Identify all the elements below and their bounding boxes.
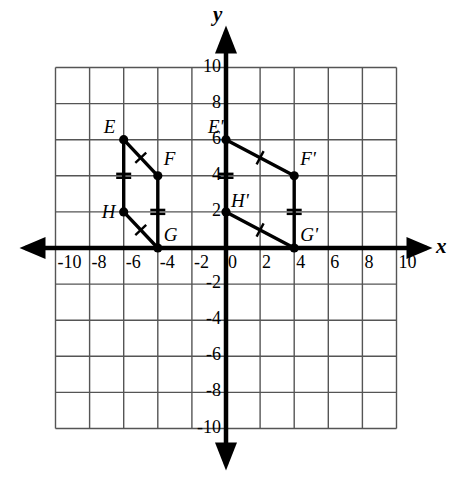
- x-tick-label: -2: [194, 252, 209, 273]
- y-axis-label: y: [213, 2, 222, 27]
- y-tick-label: -6: [206, 344, 221, 365]
- x-tick-label: 6: [330, 252, 339, 273]
- x-tick-label: 10: [399, 252, 417, 273]
- coordinate-plane-figure: y x -10-8-6-4-20246810108642-2-4-6-8-10 …: [0, 0, 460, 484]
- x-axis-arrow-left: [20, 237, 46, 259]
- shape-layer: [116, 135, 302, 253]
- y-axis-arrow-down: [215, 443, 237, 471]
- vertex-label: F: [164, 148, 176, 170]
- x-tick-label: 8: [364, 252, 373, 273]
- y-tick-label: 8: [212, 92, 221, 113]
- x-tick-label: -4: [160, 252, 175, 273]
- vertex-label: G: [164, 224, 178, 246]
- x-tick-label: -8: [92, 252, 107, 273]
- x-tick-label: 0: [228, 252, 237, 273]
- y-tick-label: -10: [197, 417, 221, 438]
- y-tick-label: -4: [206, 308, 221, 329]
- axes: [20, 26, 433, 471]
- x-tick-label: 4: [296, 252, 305, 273]
- y-tick-label: 10: [203, 56, 221, 77]
- y-tick-label: 4: [212, 164, 221, 185]
- vertex-point: [221, 207, 230, 216]
- vertex-point: [290, 171, 299, 180]
- x-axis-label: x: [436, 234, 447, 259]
- vertex-label: F': [300, 148, 316, 170]
- y-tick-label: 2: [212, 200, 221, 221]
- y-tick-label: -2: [206, 272, 221, 293]
- y-tick-label: -8: [206, 380, 221, 401]
- x-tick-label: 2: [262, 252, 271, 273]
- vertex-point: [119, 207, 128, 216]
- y-axis-arrow-up: [215, 26, 237, 54]
- x-tick-label: -10: [58, 252, 82, 273]
- vertex-label: E': [208, 116, 224, 138]
- vertex-label: H: [102, 201, 116, 223]
- vertex-label: H': [231, 190, 249, 212]
- vertex-point: [119, 135, 128, 144]
- plot-svg: [0, 0, 460, 484]
- vertex-point: [153, 171, 162, 180]
- vertex-label: E: [104, 116, 116, 138]
- vertex-label: G': [300, 224, 318, 246]
- x-tick-label: -6: [126, 252, 141, 273]
